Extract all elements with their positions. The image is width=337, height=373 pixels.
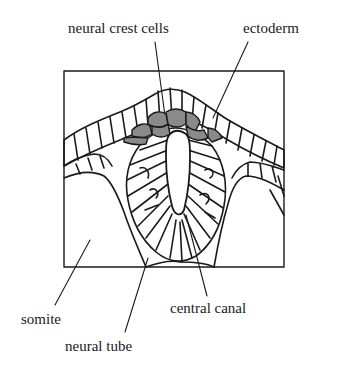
leader-neural-crest <box>155 42 165 116</box>
label-neural-tube: neural tube <box>65 339 132 354</box>
label-ectoderm: ectoderm <box>243 21 299 36</box>
label-somite: somite <box>21 312 61 327</box>
label-neural-crest-cells: neural crest cells <box>68 21 169 36</box>
leader-somite <box>55 240 90 305</box>
leader-ectoderm <box>213 42 248 118</box>
label-central-canal: central canal <box>170 301 246 316</box>
somite-right <box>214 176 284 267</box>
leader-neural-tube <box>125 258 148 332</box>
central-canal <box>166 131 190 214</box>
leader-central-canal <box>186 215 207 296</box>
